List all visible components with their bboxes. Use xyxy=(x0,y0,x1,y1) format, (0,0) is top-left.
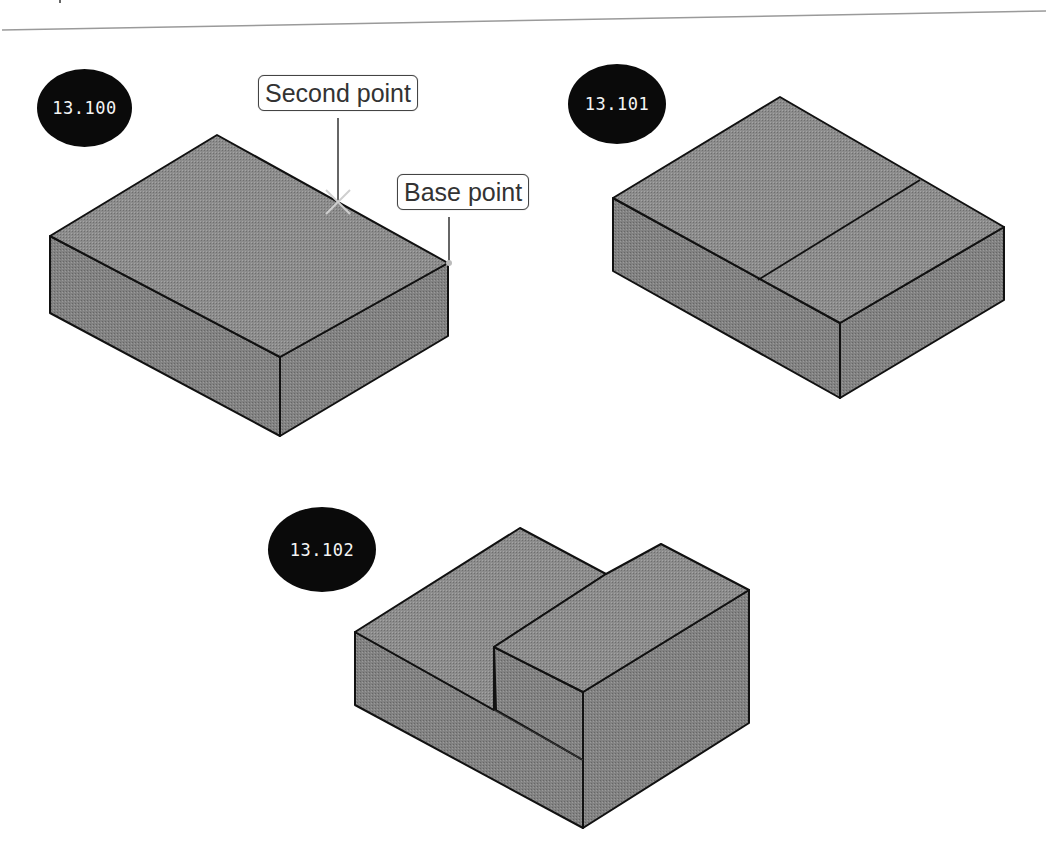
figure-label-badge: 13.101 xyxy=(568,64,666,144)
figure-13-101-box xyxy=(613,97,1004,398)
figure-label-badge: 13.102 xyxy=(268,507,376,592)
figure-label-text: 13.100 xyxy=(52,98,116,118)
base-point-callout: Base point xyxy=(397,174,529,210)
callout-text: Base point xyxy=(404,178,522,206)
figure-13-100-box xyxy=(50,135,448,436)
figure-label-badge: 13.100 xyxy=(37,69,132,147)
figure-label-text: 13.102 xyxy=(290,540,354,560)
second-point-callout: Second point xyxy=(258,75,418,111)
base-point-marker-icon xyxy=(446,260,452,266)
figure-label-text: 13.101 xyxy=(585,94,649,114)
figure-13-102-solid xyxy=(355,528,749,828)
callout-text: Second point xyxy=(265,79,411,107)
top-rule xyxy=(2,11,1046,30)
diagram-canvas xyxy=(0,0,1048,859)
